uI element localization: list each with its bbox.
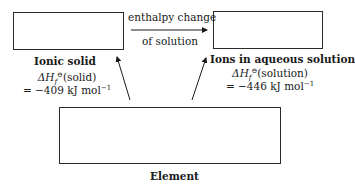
delta-h-symbol: ΔHf⊖ bbox=[232, 67, 257, 79]
enthalpy-change-label-line1: enthalpy change bbox=[128, 11, 212, 24]
delta-h-symbol: ΔHf⊖ bbox=[38, 71, 63, 83]
enthalpy-change-label-line2: of solution bbox=[128, 35, 212, 48]
enthalpy-value-solution: = −446 kJ mol−1 bbox=[220, 80, 320, 93]
ionic-solid-label: Ionic solid bbox=[34, 55, 96, 67]
species-label: (solid) bbox=[63, 71, 96, 83]
ions-aqueous-box bbox=[213, 11, 323, 49]
enthalpy-value-solid: = −409 kJ mol−1 bbox=[18, 84, 116, 97]
element-label: Element bbox=[150, 170, 199, 182]
enthalpy-formation-solution: ΔHf⊖(solution) bbox=[222, 67, 318, 80]
enthalpy-formation-solid: ΔHf⊖(solid) bbox=[22, 71, 112, 84]
ionic-solid-box bbox=[13, 12, 124, 50]
species-label: (solution) bbox=[257, 67, 308, 79]
right-up-arrow-icon bbox=[192, 58, 206, 100]
element-box bbox=[59, 107, 281, 164]
ions-aqueous-label: Ions in aqueous solution bbox=[210, 53, 355, 65]
left-up-arrow-icon bbox=[117, 57, 130, 100]
